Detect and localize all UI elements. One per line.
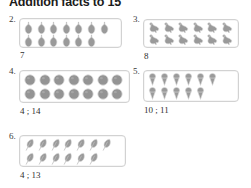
bird-icon	[176, 22, 189, 34]
problem-number: 2.	[9, 15, 16, 24]
leaf-icon	[24, 138, 35, 151]
object-group-box	[19, 135, 126, 167]
cone-icon	[160, 73, 169, 86]
bird-icon	[162, 34, 175, 46]
circle-icon	[39, 88, 51, 100]
object-row	[144, 73, 238, 87]
problem-number: 6.	[9, 132, 16, 141]
circle-icon	[24, 74, 36, 86]
pear-icon	[48, 21, 59, 34]
leaf-icon	[75, 152, 86, 165]
bird-icon	[147, 22, 160, 34]
object-row	[20, 138, 125, 152]
cone-icon	[184, 87, 193, 100]
problem-number: 4.	[9, 67, 16, 76]
leaf-icon	[62, 152, 73, 165]
object-row	[144, 22, 238, 35]
circle-icon	[97, 88, 109, 100]
problem-number: 5.	[133, 67, 140, 76]
object-group-box	[143, 70, 239, 102]
leaf-icon	[62, 138, 73, 151]
object-row	[144, 34, 238, 47]
object-row	[20, 21, 121, 34]
object-group-box	[143, 19, 239, 48]
object-row	[20, 152, 125, 166]
cone-icon	[148, 87, 157, 100]
pear-icon	[99, 21, 110, 34]
circle-icon	[68, 74, 80, 86]
object-group-box	[19, 70, 130, 103]
pear-icon	[61, 34, 72, 47]
answer-text[interactable]: 10 ; 11	[144, 106, 169, 115]
answer-text[interactable]: 8	[144, 52, 149, 61]
pear-icon	[86, 21, 97, 34]
pear-icon	[23, 21, 34, 34]
cone-icon	[184, 73, 193, 86]
bird-icon	[191, 22, 204, 34]
leaf-icon	[37, 138, 48, 151]
object-row	[20, 87, 129, 102]
cone-icon	[172, 87, 181, 100]
object-row	[20, 34, 121, 47]
leaf-icon	[75, 138, 86, 151]
circle-icon	[24, 88, 36, 100]
circle-icon	[53, 74, 65, 86]
pear-icon	[61, 21, 72, 34]
cone-icon	[208, 73, 217, 86]
bird-icon	[176, 34, 189, 46]
circle-icon	[68, 88, 80, 100]
circle-icon	[39, 74, 51, 86]
circle-icon	[111, 74, 123, 86]
answer-text[interactable]: 4 ; 13	[20, 171, 41, 180]
answer-text[interactable]: 4 ; 14	[20, 107, 41, 116]
leaf-icon	[101, 138, 112, 151]
object-row	[144, 87, 238, 101]
bird-icon	[205, 22, 218, 34]
leaf-icon	[37, 152, 48, 165]
leaf-icon	[88, 138, 99, 151]
circle-icon	[53, 88, 65, 100]
object-group-box	[19, 18, 122, 48]
leaf-icon	[88, 152, 99, 165]
answer-text[interactable]: 7	[20, 51, 25, 60]
circle-icon	[82, 88, 94, 100]
pear-icon	[36, 34, 47, 47]
pear-icon	[86, 34, 97, 47]
problem-number: 3.	[133, 15, 140, 24]
bird-icon	[191, 34, 204, 46]
cone-icon	[160, 87, 169, 100]
pear-icon	[48, 34, 59, 47]
bird-icon	[147, 34, 160, 46]
cone-icon	[148, 73, 157, 86]
leaf-icon	[24, 152, 35, 165]
circle-icon	[82, 74, 94, 86]
leaf-icon	[50, 152, 61, 165]
bird-icon	[162, 22, 175, 34]
pear-icon	[73, 21, 84, 34]
pear-icon	[36, 21, 47, 34]
page-title: Addition facts to 15	[9, 0, 121, 9]
bird-icon	[220, 34, 233, 46]
cone-icon	[196, 87, 205, 100]
circle-icon	[97, 74, 109, 86]
bird-icon	[205, 34, 218, 46]
circle-icon	[111, 88, 123, 100]
pear-icon	[73, 34, 84, 47]
cone-icon	[172, 73, 181, 86]
object-row	[20, 73, 129, 88]
pear-icon	[23, 34, 34, 47]
leaf-icon	[50, 138, 61, 151]
bird-icon	[220, 22, 233, 34]
cone-icon	[196, 73, 205, 86]
